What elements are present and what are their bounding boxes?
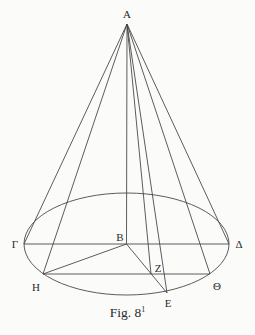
label-h: H (32, 281, 40, 293)
label-gamma: Γ (12, 238, 18, 250)
label-z: Z (155, 262, 162, 274)
segment-a-b (127, 24, 128, 244)
caption-text: Fig. 8 (110, 305, 142, 320)
figure-caption: Fig. 81 (0, 305, 255, 321)
segment-a-h (43, 24, 127, 274)
segment-a-delta (127, 24, 229, 244)
geometry-figure: A Γ B Δ H Z Θ E Fig. 81 (0, 0, 255, 335)
segment-a-e (127, 24, 167, 293)
label-delta: Δ (235, 238, 242, 250)
segment-a-gamma (24, 24, 127, 244)
label-theta: Θ (213, 280, 221, 292)
segment-h-b (43, 244, 127, 274)
cone-diagram: A Γ B Δ H Z Θ E (0, 0, 255, 335)
caption-footnote-marker: 1 (141, 305, 145, 314)
label-a: A (123, 8, 131, 20)
label-b: B (116, 231, 123, 243)
